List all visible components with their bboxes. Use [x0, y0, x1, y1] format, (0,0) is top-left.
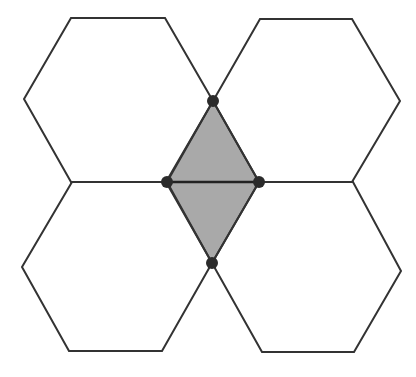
hexagon-tiling-diagram: [0, 0, 416, 377]
shaded-lower-triangle: [167, 182, 259, 263]
vertex-dot-top: [207, 95, 219, 107]
vertex-dot-right: [253, 176, 265, 188]
vertex-dot-bottom: [206, 257, 218, 269]
shaded-upper-triangle: [167, 101, 259, 182]
vertex-dot-left: [161, 176, 173, 188]
